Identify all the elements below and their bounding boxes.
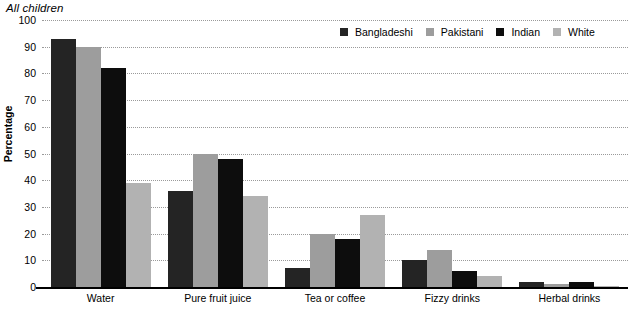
- legend-label: Indian: [511, 27, 540, 38]
- bar-group: [519, 20, 619, 287]
- bar[interactable]: [193, 154, 218, 288]
- x-tick-label: Herbal drinks: [511, 292, 628, 304]
- y-tick-label: 70: [24, 95, 36, 106]
- legend-swatch-icon: [340, 28, 348, 36]
- plot-area: [42, 20, 628, 287]
- legend-item[interactable]: White: [553, 27, 595, 38]
- bar[interactable]: [452, 271, 477, 287]
- legend-label: Bangladeshi: [355, 27, 413, 38]
- x-tick-label: Water: [42, 292, 159, 304]
- legend-item[interactable]: Indian: [496, 27, 540, 38]
- y-tick-label: 10: [24, 255, 36, 266]
- legend-label: Pakistani: [441, 27, 484, 38]
- x-axis: WaterPure fruit juiceTea or coffeeFizzy …: [42, 292, 628, 312]
- legend-swatch-icon: [496, 28, 504, 36]
- bar[interactable]: [335, 239, 360, 287]
- bar[interactable]: [101, 68, 126, 287]
- bar[interactable]: [360, 215, 385, 287]
- bar-group: [168, 20, 268, 287]
- legend-item[interactable]: Bangladeshi: [340, 27, 413, 38]
- y-tick-label: 20: [24, 229, 36, 240]
- bar-group: [51, 20, 151, 287]
- bar-group: [402, 20, 502, 287]
- legend-swatch-icon: [426, 28, 434, 36]
- bar[interactable]: [51, 39, 76, 287]
- chart-container: All children 1009080706050403020100 Perc…: [0, 0, 630, 316]
- bar[interactable]: [168, 191, 193, 287]
- x-axis-line: [36, 287, 628, 289]
- legend-item[interactable]: Pakistani: [426, 27, 484, 38]
- x-tick-label: Tea or coffee: [276, 292, 393, 304]
- bar[interactable]: [402, 260, 427, 287]
- y-tick-label: 40: [24, 175, 36, 186]
- legend: BangladeshiPakistaniIndianWhite: [340, 27, 595, 38]
- y-tick-label: 100: [18, 15, 36, 26]
- bar[interactable]: [126, 183, 151, 287]
- x-tick-label: Fizzy drinks: [394, 292, 511, 304]
- bar-group: [285, 20, 385, 287]
- y-tick-label: 90: [24, 42, 36, 53]
- bar[interactable]: [243, 196, 268, 287]
- x-tick-label: Pure fruit juice: [159, 292, 276, 304]
- bar[interactable]: [76, 47, 101, 287]
- legend-swatch-icon: [553, 28, 561, 36]
- bar[interactable]: [218, 159, 243, 287]
- y-tick-label: 50: [24, 149, 36, 160]
- legend-label: White: [568, 27, 595, 38]
- bars-layer: [42, 20, 628, 287]
- y-tick-label: 30: [24, 202, 36, 213]
- bar[interactable]: [477, 276, 502, 287]
- y-axis-title: Percentage: [2, 89, 14, 179]
- y-tick-label: 60: [24, 122, 36, 133]
- bar[interactable]: [285, 268, 310, 287]
- bar[interactable]: [310, 234, 335, 287]
- y-tick-label: 80: [24, 68, 36, 79]
- bar[interactable]: [427, 250, 452, 287]
